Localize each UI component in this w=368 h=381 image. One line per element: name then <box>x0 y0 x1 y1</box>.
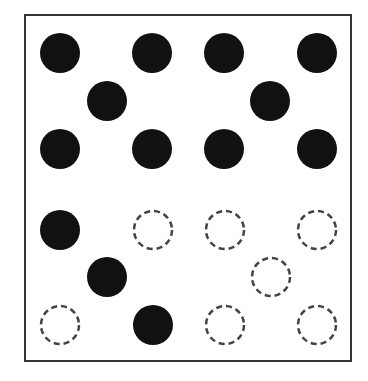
filled-dot <box>204 129 244 169</box>
dashed-dot <box>298 306 336 344</box>
dashed-dot <box>206 211 244 249</box>
filled-dot <box>40 33 80 73</box>
dashed-dot <box>298 211 336 249</box>
dashed-dot <box>134 211 172 249</box>
filled-dot <box>297 33 337 73</box>
filled-dot <box>133 305 173 345</box>
filled-dot <box>250 81 290 121</box>
filled-dot <box>87 81 127 121</box>
filled-dot <box>297 129 337 169</box>
dot-pattern <box>0 0 368 381</box>
filled-dot <box>87 257 127 297</box>
dashed-dot <box>206 306 244 344</box>
filled-dot <box>132 33 172 73</box>
dashed-dot <box>41 306 79 344</box>
filled-dot <box>132 129 172 169</box>
dashed-dot <box>252 258 290 296</box>
filled-dot <box>40 210 80 250</box>
filled-dot <box>40 129 80 169</box>
filled-dot <box>204 33 244 73</box>
